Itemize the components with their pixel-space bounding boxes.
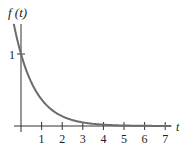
x-tick-labels: 1234567 xyxy=(39,132,169,146)
y-axis-label: f (t) xyxy=(8,5,27,20)
x-tick-label-5: 5 xyxy=(121,132,127,146)
y-tick-label-1: 1 xyxy=(9,48,15,62)
x-tick-label-1: 1 xyxy=(39,132,45,146)
exponential-decay-curve xyxy=(14,24,172,126)
x-axis-label: t xyxy=(176,120,180,134)
x-tick-label-4: 4 xyxy=(100,132,106,146)
x-tick-label-7: 7 xyxy=(162,132,168,146)
x-tick-label-2: 2 xyxy=(59,132,65,146)
x-tick-label-6: 6 xyxy=(142,132,148,146)
x-tick-label-3: 3 xyxy=(80,132,86,146)
chart-canvas: f (t) 1 t 1234567 xyxy=(0,0,193,155)
